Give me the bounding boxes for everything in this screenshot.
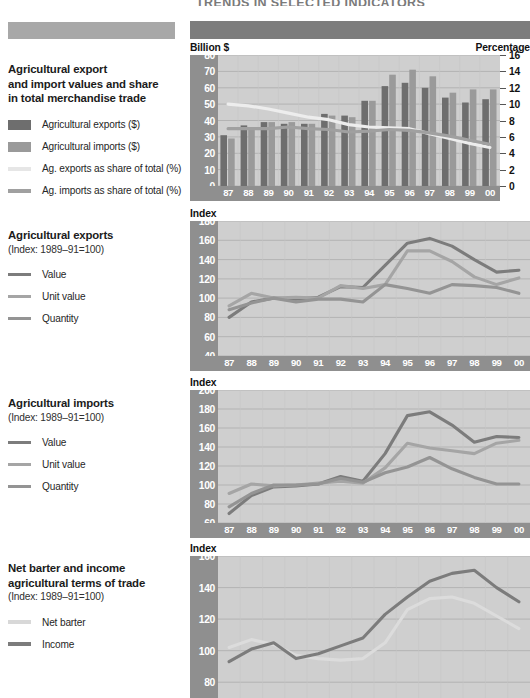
plot-area — [218, 55, 500, 186]
bar — [430, 76, 437, 186]
x-axis-tick: 00 — [485, 187, 495, 198]
plot-wrap: 01020304050607080 0246810121416 — [190, 55, 530, 186]
y2-axis-tick: 8 — [509, 115, 514, 126]
section-subtitle: (Index: 1989–91=100) — [8, 243, 188, 256]
plot-wrap: 6080100120140160180200 — [190, 390, 530, 523]
plot-svg — [218, 221, 530, 356]
legend-swatch-line — [8, 642, 31, 646]
y-axis-tick: 120 — [199, 614, 215, 625]
y2-tick-mark — [500, 71, 506, 72]
legend-swatch-wrap — [8, 295, 42, 299]
section-subtitle: (Index: 1989–91=100) — [8, 411, 188, 424]
legend-label: Unit value — [42, 291, 85, 302]
bar — [268, 122, 275, 186]
x-axis-tick: 87 — [224, 357, 234, 368]
y-axis-tick: 140 — [199, 582, 215, 593]
y2-tick-mark — [500, 88, 506, 89]
legend: Net barter Income — [8, 613, 188, 653]
chart-ag-exports: Index 406080100120140160180 878889909192… — [190, 208, 530, 371]
section-subtitle: (Index: 1989–91=100) — [8, 590, 188, 603]
legend: Value Unit value Quantity — [8, 434, 188, 496]
section-title-line: Net barter and income — [8, 561, 188, 576]
section-info-ag-imports: Agricultural imports(Index: 1989–91=100)… — [8, 396, 188, 500]
legend-item: Income — [8, 635, 188, 653]
x-axis-tick: 92 — [324, 187, 334, 198]
legend-swatch-box — [8, 120, 31, 130]
x-axis-tick: 89 — [263, 187, 273, 198]
x-axis-tick: 94 — [380, 524, 390, 535]
legend-swatch-wrap — [8, 189, 42, 193]
y-axis-tick: 40 — [204, 115, 215, 126]
x-axis-tick: 94 — [364, 187, 374, 198]
y-axis-tick: 160 — [199, 423, 215, 434]
legend-label: Agricultural imports ($) — [42, 141, 140, 152]
x-axis-tick: 98 — [469, 357, 479, 368]
legend-swatch-wrap — [8, 317, 42, 321]
y2-axis-tick: 2 — [509, 164, 514, 175]
bar — [228, 139, 235, 187]
x-axis-tick: 92 — [336, 357, 346, 368]
y2-axis-tick: 16 — [509, 50, 520, 61]
x-axis-tick: 97 — [425, 187, 435, 198]
right-header-bar — [190, 21, 530, 39]
y-axis-tick: 160 — [199, 235, 215, 246]
section-title-line: and import values and share — [8, 77, 188, 92]
legend-item: Quantity — [8, 478, 188, 496]
bar — [470, 89, 477, 186]
y-axis-tick: 140 — [199, 442, 215, 453]
section-title-line: Agricultural export — [8, 62, 188, 77]
y-axis-tick: 180 — [199, 404, 215, 415]
bar — [349, 117, 356, 186]
plot-area — [218, 221, 530, 356]
x-axis-tick: 94 — [380, 357, 390, 368]
chart-trade-values: Billion $ Percentage 01020304050607080 0… — [190, 42, 530, 201]
plot-area — [218, 556, 530, 698]
axis-captions: Index — [190, 377, 530, 390]
y2-tick-mark — [500, 137, 506, 138]
bar — [220, 135, 227, 186]
legend-item: Agricultural exports ($) — [8, 116, 188, 134]
legend-swatch-line — [8, 189, 31, 193]
y-axis-gutter: 406080100120140160180 — [190, 221, 218, 356]
y-axis-tick: 70 — [204, 66, 215, 77]
y2-tick-mark — [500, 104, 506, 105]
y-axis-tick: 30 — [204, 131, 215, 142]
y2-axis-tick: 12 — [509, 82, 520, 93]
plot-svg — [218, 390, 530, 523]
legend-label: Value — [42, 437, 66, 448]
plot-svg — [218, 556, 530, 698]
section-title-line: Agricultural exports — [8, 228, 188, 243]
axis-captions: Index — [190, 543, 530, 556]
legend-label: Ag. exports as share of total (%) — [42, 163, 181, 174]
legend-item: Value — [8, 434, 188, 452]
x-axis-tick: 00 — [514, 357, 524, 368]
x-axis-tick: 87 — [223, 187, 233, 198]
legend-swatch-line — [8, 620, 31, 624]
legend-swatch-wrap — [8, 463, 42, 467]
legend: Agricultural exports ($) Agricultural im… — [8, 116, 188, 200]
chart-terms-of-trade: Index 80100120140160 — [190, 543, 530, 698]
bar — [329, 116, 336, 186]
plot-svg — [218, 55, 500, 186]
y2-axis: 0246810121416 — [500, 55, 530, 186]
bar — [248, 129, 255, 186]
x-axis-band: 8788899091929394959697989900 — [190, 186, 500, 201]
legend-item: Agricultural imports ($) — [8, 138, 188, 156]
bar — [369, 101, 376, 186]
y2-axis-tick: 4 — [509, 148, 514, 159]
legend-item: Unit value — [8, 456, 188, 474]
x-axis-tick: 89 — [269, 357, 279, 368]
section-info-terms-of-trade: Net barter and incomeagricultural terms … — [8, 561, 188, 657]
y-axis-tick: 20 — [204, 148, 215, 159]
y2-axis-tick: 14 — [509, 66, 520, 77]
bar — [289, 122, 296, 186]
legend-label: Income — [42, 639, 74, 650]
legend-swatch-wrap — [8, 142, 42, 152]
legend-swatch-line — [8, 441, 31, 445]
axis-captions: Index — [190, 208, 530, 221]
legend-item: Net barter — [8, 613, 188, 631]
x-axis-tick: 87 — [224, 524, 234, 535]
bar — [490, 89, 497, 186]
legend-label: Ag. imports as share of total (%) — [42, 185, 181, 196]
page-header-title: TRENDS IN SELECTED INDICATORS — [196, 0, 425, 6]
